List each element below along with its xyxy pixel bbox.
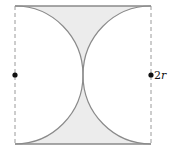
geometry-diagram: 2r bbox=[0, 0, 171, 152]
side-length-label: 2r bbox=[154, 69, 167, 82]
left-center-point bbox=[12, 72, 17, 77]
right-center-point bbox=[148, 72, 153, 77]
